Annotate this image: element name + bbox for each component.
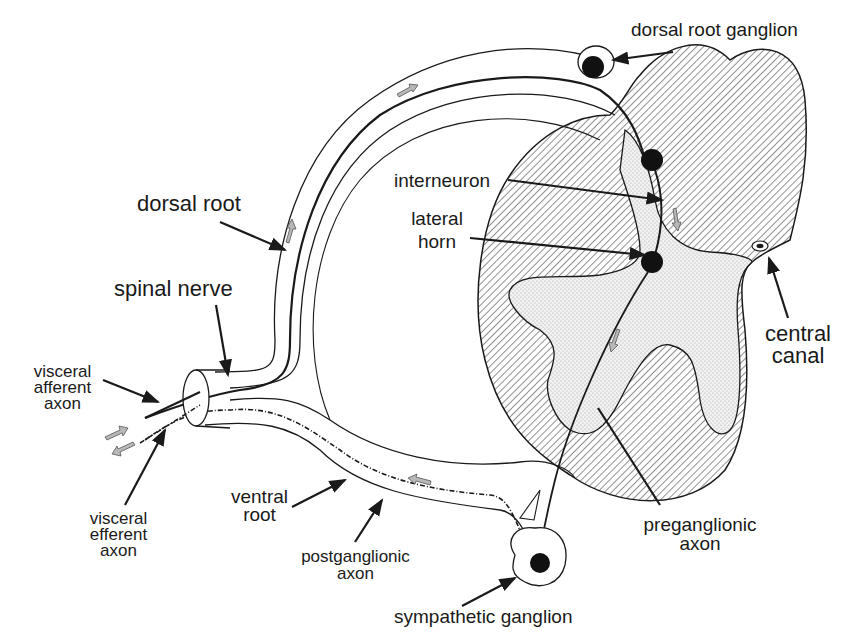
label-lateral-horn: lateral horn <box>402 209 472 251</box>
label-ventral-root: ventral root <box>222 488 297 524</box>
arrow-icon <box>286 219 296 243</box>
arrow-icon <box>105 426 128 440</box>
label-ventral-root-line2: root <box>222 506 297 524</box>
label-dorsal-root-ganglion: dorsal root ganglion <box>631 20 798 39</box>
label-dorsal-root: dorsal root <box>137 193 241 215</box>
label-central-canal-line2: canal <box>758 345 838 367</box>
label-preganglionic-axon: preganglionic axon <box>630 515 770 553</box>
arrow-icon <box>112 442 135 456</box>
label-postganglionic-axon: postganglionic axon <box>288 548 423 582</box>
label-lateral-horn-line1: lateral <box>402 209 472 228</box>
arrow-icon <box>397 84 418 97</box>
label-postganglionic-line1: postganglionic <box>288 548 423 565</box>
label-lateral-horn-line2: horn <box>402 232 472 251</box>
postganglionic-axon <box>145 409 532 560</box>
label-preganglionic-line2: axon <box>630 534 770 553</box>
interneuron-cell <box>641 149 663 171</box>
label-central-canal-line1: central <box>758 323 838 345</box>
label-postganglionic-line2: axon <box>288 565 423 582</box>
label-visceral-afferent-line3: axon <box>20 396 105 412</box>
label-central-canal: central canal <box>758 323 838 367</box>
label-visceral-afferent-axon: visceral afferent axon <box>20 364 105 412</box>
label-sympathetic-ganglion: sympathetic ganglion <box>394 607 573 626</box>
sympathetic-ganglion-neuron <box>530 553 550 573</box>
label-spinal-nerve: spinal nerve <box>114 278 233 300</box>
label-visceral-efferent-axon: visceral efferent axon <box>76 511 161 559</box>
label-interneuron: interneuron <box>394 171 490 190</box>
dorsal-root-ganglion-neuron <box>582 56 604 78</box>
label-preganglionic-line1: preganglionic <box>630 515 770 534</box>
label-visceral-efferent-line3: axon <box>76 543 161 559</box>
